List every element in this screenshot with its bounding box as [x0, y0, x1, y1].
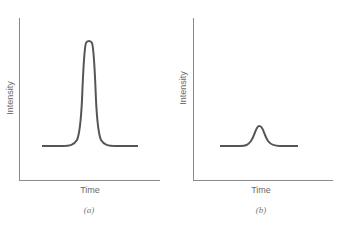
panel-b: Intensity Time (b) [170, 0, 340, 225]
peak-curve [220, 126, 298, 146]
panel-a: Intensity Time (a) [0, 0, 170, 225]
panel-caption: (b) [241, 205, 281, 215]
panel-caption: (a) [69, 205, 109, 215]
y-axis-label: Intensity [5, 68, 15, 128]
peak-curve [42, 41, 138, 146]
x-axis-label: Time [231, 185, 291, 195]
x-axis-label: Time [60, 185, 120, 195]
y-axis-label: Intensity [178, 58, 188, 118]
